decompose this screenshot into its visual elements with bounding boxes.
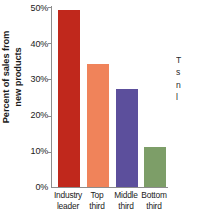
y-tick-label-0: 0% xyxy=(22,183,48,192)
x-label-bottom-third-line-2: third xyxy=(134,201,174,212)
y-tick-label-20: 20% xyxy=(22,111,48,120)
y-tick-label-50: 50% xyxy=(22,4,48,13)
x-label-bottom-third: Bottom third xyxy=(134,190,174,211)
side-caption-line-3: n xyxy=(176,79,198,91)
side-caption-line-1: T xyxy=(176,54,198,66)
y-tick-label-40: 40% xyxy=(22,40,48,49)
y-axis-tick-labels: 50% 40% 30% 20% 10% 0% xyxy=(20,0,48,224)
side-caption-line-2: s xyxy=(176,66,198,78)
side-caption-cropped: T s n l xyxy=(176,54,198,104)
bar-industry-leader[interactable] xyxy=(58,10,80,187)
side-caption-line-4: l xyxy=(176,91,198,103)
x-label-bottom-third-line-1: Bottom xyxy=(134,190,174,201)
bar-series xyxy=(52,6,169,187)
x-axis-category-labels: Industry leader Top third Middle third B… xyxy=(51,190,198,220)
plot-area xyxy=(51,6,168,188)
bar-chart-figure: Percent of sales from new products 50% 4… xyxy=(0,0,198,224)
y-tick-label-30: 30% xyxy=(22,75,48,84)
bar-middle-third[interactable] xyxy=(116,89,138,187)
bar-bottom-third[interactable] xyxy=(144,147,166,187)
y-axis-title-line-1: Percent of sales from xyxy=(1,17,13,137)
bar-top-third[interactable] xyxy=(87,64,109,187)
y-tick-label-10: 10% xyxy=(22,147,48,156)
